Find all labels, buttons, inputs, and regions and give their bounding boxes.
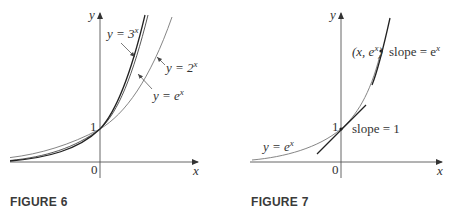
figure-7-caption: FIGURE 7 (251, 195, 309, 209)
y-tick-1-label: 1 (90, 119, 97, 134)
y-axis-label: y (87, 7, 95, 22)
label-slope-1: slope = 1 (352, 121, 400, 136)
label-point-x-ex: (x, ex) (352, 43, 383, 59)
x-axis-label: x (436, 163, 443, 178)
label-3x: y = 3x (105, 25, 139, 41)
label-2x: y = 2x (164, 59, 198, 75)
point-0-1 (339, 127, 342, 130)
origin-label: 0 (91, 162, 98, 177)
figure-6-caption: FIGURE 6 (10, 195, 68, 209)
leader-2x (157, 57, 165, 65)
label-ex: y = ex (151, 87, 184, 103)
y-tick-1-label: 1 (332, 119, 339, 134)
label-slope-ex: slope = ex (389, 43, 440, 59)
y-axis-label: y (328, 7, 336, 22)
label-curve-ex: y = ex (261, 138, 294, 154)
figure-7: y x 0 1 (x, ex) slope = ex slope = 1 y =… (250, 7, 443, 209)
origin-label: 0 (332, 162, 339, 177)
x-axis-label: x (192, 163, 199, 178)
figure-6: y x 0 1 y = 3x y = 2x y = ex FIGURE 6 (10, 7, 199, 209)
leader-3x (121, 43, 135, 57)
